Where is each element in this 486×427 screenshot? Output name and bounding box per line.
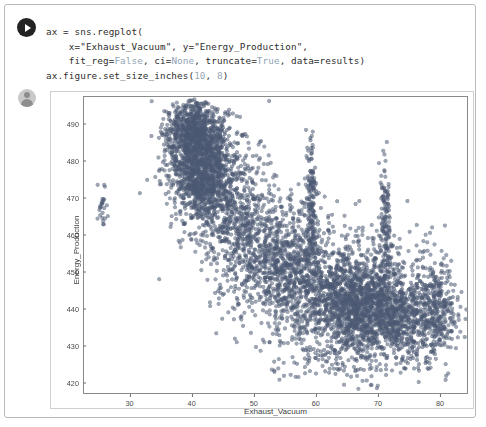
figure-output: 420430440450460470480490 304050607080 Ex…: [50, 91, 474, 409]
x-tick-label: 60: [312, 394, 320, 408]
code-token: , ci=: [143, 55, 172, 66]
user-avatar-icon: [18, 89, 36, 107]
code-token: False: [114, 55, 143, 66]
y-tick-label: 480: [67, 156, 83, 165]
code-token: None: [171, 55, 194, 66]
x-tick-label: 70: [374, 394, 382, 408]
scatter-plot-canvas: [84, 97, 467, 393]
code-token: True: [257, 55, 280, 66]
notebook-cell: ax = sns.regplot( x="Exhaust_Vacuum", y=…: [4, 4, 476, 418]
code-token: , data=results): [280, 55, 365, 66]
code-token: ,: [206, 70, 217, 81]
code-token: fit_reg=: [46, 55, 114, 66]
run-cell-play-icon[interactable]: [17, 18, 36, 37]
avatar-body: [21, 99, 33, 107]
x-tick-label: 50: [250, 394, 258, 408]
y-tick-label: 490: [67, 119, 83, 128]
y-tick-label: 420: [67, 378, 83, 387]
y-axis-label: Energy_Production: [72, 180, 81, 320]
code-token: ): [223, 70, 229, 81]
code-token: ax.figure.set_size_inches(: [46, 70, 194, 81]
avatar-head: [24, 92, 30, 98]
code-token: x="Exhaust_Vacuum", y="Energy_Production…: [46, 41, 308, 52]
play-triangle: [25, 24, 31, 32]
y-tick-label: 430: [67, 341, 83, 350]
x-axis-label: Exhaust_Vacuum: [83, 407, 468, 416]
plot-axes-frame: [83, 96, 468, 394]
x-tick-label: 80: [436, 394, 444, 408]
code-editor[interactable]: ax = sns.regplot( x="Exhaust_Vacuum", y=…: [46, 25, 365, 83]
x-tick-label: 30: [126, 394, 134, 408]
x-tick-label: 40: [188, 394, 196, 408]
code-token: 10: [194, 70, 205, 81]
code-token: ax = sns.regplot(: [46, 26, 143, 37]
code-token: , truncate=: [194, 55, 257, 66]
